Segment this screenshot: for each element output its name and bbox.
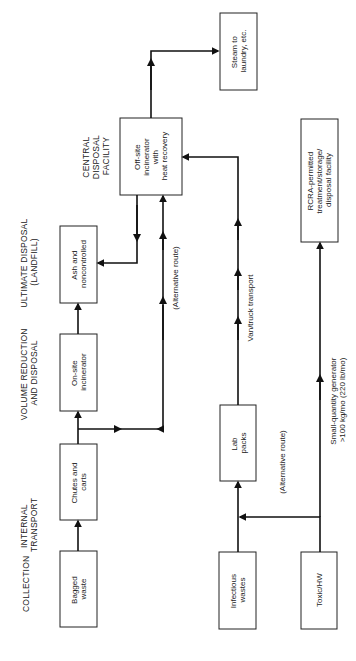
header-internal-transport: INTERNAL TRANSPORT	[19, 498, 39, 552]
box-rcra-facility: RCRA-permitted treatment/storage/ dispos…	[301, 119, 338, 242]
label-van-truck-transport: Van/truck transport	[246, 274, 255, 342]
box-offsite-incinerator: Off-site incinerator with heat recovery	[120, 118, 182, 195]
box-lab-packs: Lab packs	[220, 405, 256, 481]
svg-text:Bagged waste: Bagged waste	[70, 574, 88, 604]
header-central-disposal: CENTRAL DISPOSAL FACILITY	[81, 133, 111, 179]
svg-text:Small-quantity generator: Small-quantity generator >100 kg/mo (220…	[329, 355, 347, 444]
svg-text:Toxic/HW: Toxic/HW	[315, 573, 324, 607]
svg-text:INTERNAL TRANSPORT: INTERNAL TRANSPORT	[19, 498, 39, 552]
box-toxic-hw: Toxic/HW	[301, 552, 337, 629]
svg-text:COLLECTION: COLLECTION	[21, 556, 31, 612]
label-alternative-route-upper: (Alternative route)	[171, 246, 180, 310]
waste-flow-diagram: COLLECTION INTERNAL TRANSPORT VOLUME RED…	[0, 0, 356, 661]
svg-text:Steam to laundry, etc.: Steam to laundry, etc.	[230, 30, 248, 73]
box-ash-noncontrolled: Ash and noncontrolled	[60, 226, 97, 303]
svg-text:(Alternative route): (Alternative route)	[278, 430, 287, 494]
svg-text:On-site incinerator: On-site incinerator	[70, 353, 88, 391]
svg-text:CENTRAL DISPOSAL F: CENTRAL DISPOSAL FACILITY	[81, 133, 111, 179]
svg-text:RCRA-permitted treatment: RCRA-permitted treatment/storage/ dispos…	[306, 146, 333, 213]
label-alternative-route-lower: (Alternative route)	[278, 430, 287, 494]
box-bagged-waste: Bagged waste	[60, 551, 97, 627]
header-ultimate-disposal: ULTIMATE DISPOSAL (LANDFILL)	[19, 216, 39, 307]
header-collection: COLLECTION	[21, 556, 31, 612]
svg-text:Van/truck transport: Van/truck transport	[246, 274, 255, 342]
box-infectious-wastes: Infectious wastes	[219, 552, 256, 629]
box-chutes-carts: Chutes and carts	[60, 444, 97, 520]
label-small-quantity-generator: Small-quantity generator >100 kg/mo (220…	[329, 355, 347, 444]
header-volume-reduction: VOLUME REDUCTION AND DISPOSAL	[19, 326, 39, 421]
svg-text:(Alternative route): (Alternative route)	[171, 246, 180, 310]
svg-text:ULTIMATE DISPOSAL (LANDF: ULTIMATE DISPOSAL (LANDFILL)	[19, 216, 39, 307]
svg-text:VOLUME REDUCTION AND DIS: VOLUME REDUCTION AND DISPOSAL	[19, 326, 39, 421]
svg-text:Lab packs: Lab packs	[230, 433, 248, 454]
box-onsite-incinerator: On-site incinerator	[60, 334, 97, 411]
box-steam-laundry: Steam to laundry, etc.	[220, 13, 257, 90]
